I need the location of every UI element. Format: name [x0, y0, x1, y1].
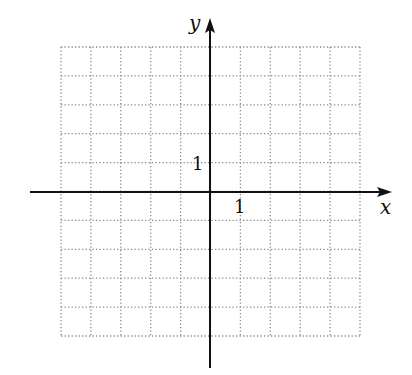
y-axis-label: y	[188, 11, 201, 35]
x-tick-label-1: 1	[234, 196, 245, 217]
x-axis-label: x	[380, 195, 391, 219]
y-tick-label-1: 1	[192, 153, 203, 174]
coordinate-plane: y x 1 1	[0, 0, 412, 375]
